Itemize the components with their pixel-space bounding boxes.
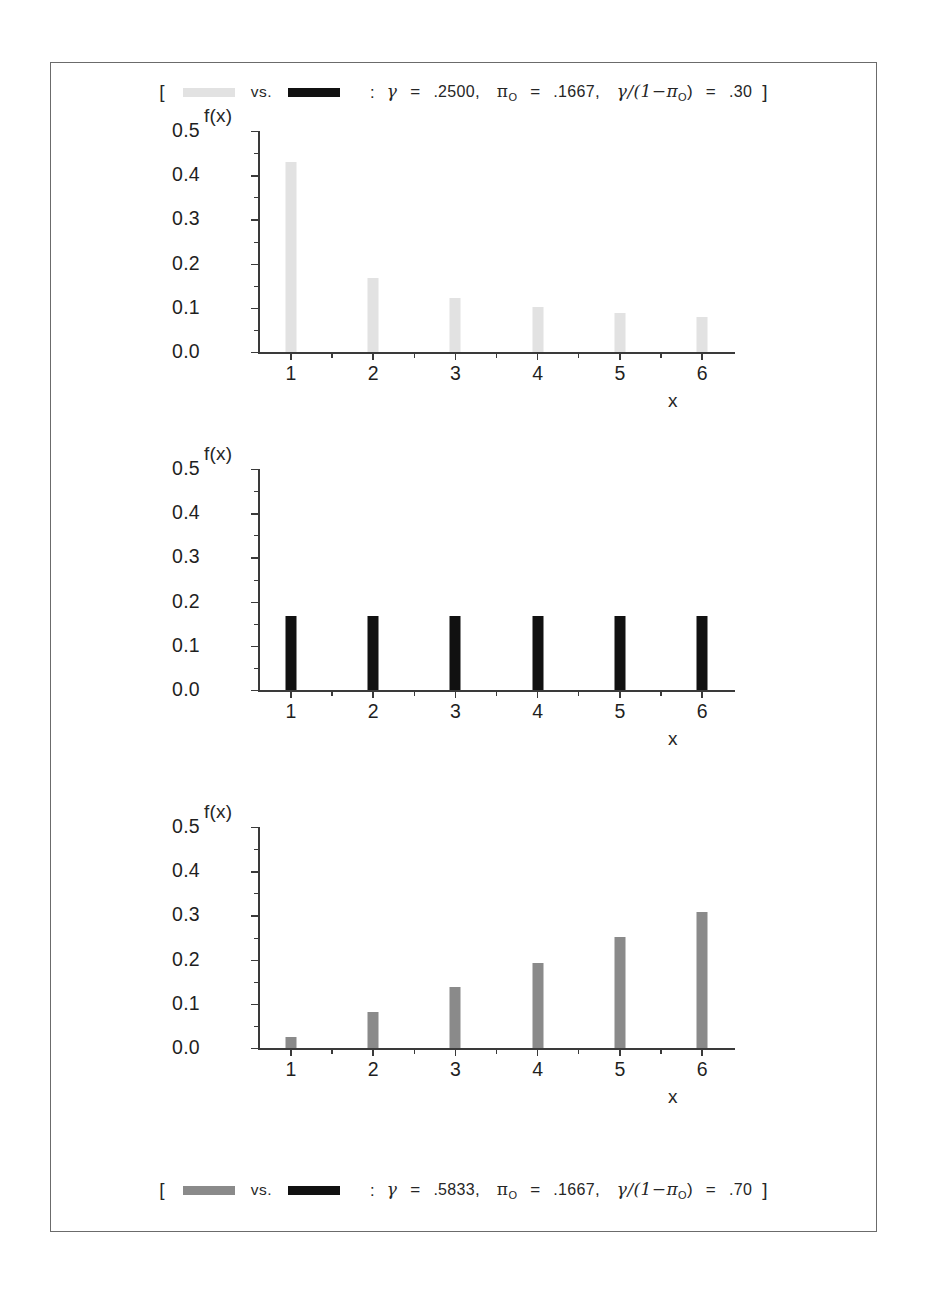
chart-1-x-minor-tick: [496, 354, 497, 358]
caption-bottom-ratio-value: .70: [729, 1181, 752, 1198]
chart-1-y-tick: [251, 264, 258, 265]
chart-2-y-tick: [251, 557, 258, 558]
chart-2-y-tick: [251, 513, 258, 514]
chart-2-y-tick-label: 0.0: [172, 680, 200, 700]
chart-1-ylabel: f(x): [204, 105, 232, 127]
chart-2-y-tick-label: 0.1: [172, 636, 200, 656]
chart-3-x-tick: [455, 1050, 456, 1056]
chart-3-ylabel: f(x): [204, 801, 232, 823]
caption-bottom-colon: :: [356, 1181, 381, 1200]
chart-3-xlabel: x: [668, 1086, 678, 1108]
caption-top: [ vs. : γ = .2500, πO = .1667, γ/(1−πO) …: [51, 81, 876, 103]
chart-3-bar: [697, 912, 708, 1048]
legend-swatch-dark: [288, 88, 340, 97]
chart-1-y-minor-tick: [254, 242, 259, 243]
chart-2-bar: [614, 616, 625, 690]
chart-3-y-tick: [251, 960, 258, 961]
chart-2-x-minor-tick: [496, 692, 497, 696]
chart-1-xlabel: x: [668, 390, 678, 412]
chart-3-y-minor-tick: [254, 893, 259, 894]
chart-1-x-tick-label: 6: [697, 364, 708, 384]
caption-bottom-ratio-sub: O: [678, 1189, 687, 1201]
chart-1-x-minor-tick: [414, 354, 415, 358]
chart-1-plot-area: 0.00.10.20.30.40.5123456: [201, 131, 801, 383]
chart-2-x-tick: [290, 692, 291, 698]
caption-bottom-eq2: =: [523, 1180, 547, 1199]
chart-2-bar: [285, 616, 296, 690]
chart-2-y-tick: [251, 602, 258, 603]
chart-2-y-tick-label: 0.5: [172, 459, 200, 479]
chart-1-bars: [201, 131, 801, 352]
caption-top-ratio-expr: γ/(1−π: [617, 81, 678, 101]
chart-panel-1: f(x) 0.00.10.20.30.40.5123456 x: [51, 105, 878, 425]
caption-top-eq2: =: [523, 82, 547, 101]
chart-2-x-tick-label: 5: [614, 702, 625, 722]
chart-1-x-tick: [455, 354, 456, 360]
caption-top-pi-sub: O: [508, 91, 517, 103]
chart-1-x-minor-tick: [660, 354, 661, 358]
caption-top-ratio-value: .30: [729, 83, 752, 100]
chart-2-x-tick-label: 1: [285, 702, 296, 722]
chart-1-bar: [614, 313, 625, 352]
chart-2-x-minor-tick: [578, 692, 579, 696]
chart-1-bar: [532, 307, 543, 352]
chart-2-x-tick: [537, 692, 538, 698]
caption-bottom-ratio-expr: γ/(1−π: [617, 1179, 678, 1199]
chart-1-x-tick: [290, 354, 291, 360]
chart-1-y-tick-label: 0.0: [172, 342, 200, 362]
caption-top-pi: π: [497, 81, 509, 101]
chart-3-y-tick-label: 0.3: [172, 906, 200, 926]
caption-bottom-eq3: =: [699, 1180, 723, 1199]
chart-2-x-tick-label: 3: [450, 702, 461, 722]
chart-1-y-minor-tick: [254, 197, 259, 198]
caption-top-gamma-value: .2500: [433, 83, 475, 100]
caption-bottom-gamma-value: .5833: [433, 1181, 475, 1198]
chart-3-x-tick: [701, 1050, 702, 1056]
chart-2-bar: [368, 616, 379, 690]
chart-3-x-tick: [372, 1050, 373, 1056]
chart-3-y-tick-label: 0.5: [172, 817, 200, 837]
chart-2-y-minor-tick: [254, 668, 259, 669]
chart-3-x-tick-label: 2: [368, 1060, 379, 1080]
chart-2-bar: [532, 616, 543, 690]
chart-1-y-minor-tick: [254, 286, 259, 287]
chart-3-x-tick-label: 5: [614, 1060, 625, 1080]
chart-1-x-tick-label: 2: [368, 364, 379, 384]
chart-1-bar: [450, 298, 461, 352]
chart-3-x-minor-tick: [331, 1050, 332, 1054]
chart-1-y-tick: [251, 219, 258, 220]
chart-1-y-tick: [251, 352, 258, 353]
chart-2-y-minor-tick: [254, 535, 259, 536]
caption-top-vs: vs.: [251, 83, 272, 101]
caption-bottom-bracket-close: ]: [752, 1179, 770, 1201]
chart-3-x-tick: [537, 1050, 538, 1056]
caption-top-colon: :: [356, 83, 381, 102]
chart-3-x-tick-label: 3: [450, 1060, 461, 1080]
chart-1-y-tick-label: 0.4: [172, 165, 200, 185]
chart-3-y-tick: [251, 827, 258, 828]
chart-1-bar: [697, 317, 708, 352]
chart-1-y-tick-label: 0.1: [172, 298, 200, 318]
chart-3-bar: [450, 987, 461, 1048]
caption-bottom-eq1: =: [403, 1180, 427, 1199]
caption-top-bracket-open: [: [157, 81, 167, 103]
chart-2-x-tick: [372, 692, 373, 698]
chart-1-y-minor-tick: [254, 153, 259, 154]
caption-bottom-vs: vs.: [251, 1181, 272, 1199]
caption-top-bracket-close: ]: [752, 81, 770, 103]
chart-3-x-minor-tick: [660, 1050, 661, 1054]
chart-2-y-minor-tick: [254, 491, 259, 492]
chart-2-x-minor-tick: [414, 692, 415, 696]
chart-1-y-tick: [251, 175, 258, 176]
caption-top-eq1: =: [403, 82, 427, 101]
chart-2-x-minor-tick: [331, 692, 332, 696]
chart-1-y-tick-label: 0.3: [172, 210, 200, 230]
chart-3-y-tick-label: 0.0: [172, 1038, 200, 1058]
caption-bottom: [ vs. : γ = .5833, πO = .1667, γ/(1−πO) …: [51, 1179, 876, 1201]
caption-bottom-pi-value: .1667: [553, 1181, 595, 1198]
chart-3-x-minor-tick: [578, 1050, 579, 1054]
caption-bottom-ratio-close: ): [687, 1180, 693, 1199]
chart-3-bar: [368, 1012, 379, 1048]
chart-3-y-tick-label: 0.4: [172, 861, 200, 881]
chart-1-y-tick: [251, 131, 258, 132]
